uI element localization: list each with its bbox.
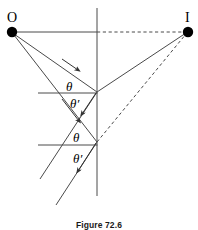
arrow-reflected-upper (82, 93, 96, 114)
theta-lower-reflected-label: θ′ (73, 152, 82, 165)
theta-lower-incident-label: θ (73, 131, 79, 144)
theta-upper-reflected-label: θ′ (70, 97, 79, 110)
theta-upper-incident-label: θ (66, 80, 72, 93)
arrow-incident-upper (62, 59, 78, 70)
figure-caption: Figure 72.6 (0, 220, 198, 230)
virtual-ray-upper-solid (97, 33, 186, 92)
image-point-label: I (185, 11, 190, 25)
virtual-ray-lower-dashed (97, 34, 186, 142)
image-point-dot (183, 27, 193, 37)
figure-page: O I θ θ′ θ θ′ Figure 72.6 (0, 0, 198, 230)
object-point-label: O (7, 11, 17, 25)
incident-ray-lower (14, 35, 97, 142)
incident-ray-upper (14, 34, 97, 92)
ray-diagram (0, 0, 198, 230)
object-point-dot (7, 27, 17, 37)
